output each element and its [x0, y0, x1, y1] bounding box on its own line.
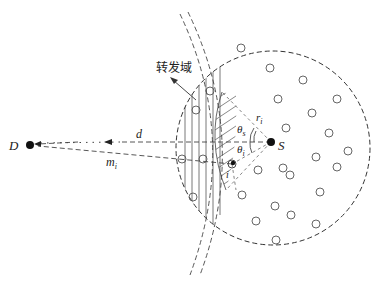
- forwarding-region-label: 转发域: [156, 62, 192, 74]
- diagram-graphics: [0, 0, 374, 281]
- destination-label: D: [9, 139, 18, 152]
- relay-node-label: i: [226, 170, 229, 180]
- radius-label: ri: [256, 112, 263, 126]
- relay-node-i: [231, 161, 235, 165]
- angle-upper-label: θs: [237, 124, 246, 138]
- angle-lower-label: θi: [237, 144, 245, 158]
- distance-label-d: d: [136, 128, 142, 140]
- coverage-circle: [176, 51, 370, 245]
- source-label: S: [278, 139, 285, 152]
- neighbor-nodes: [178, 44, 352, 244]
- source-node: [267, 138, 275, 146]
- relay-distance-label: mi: [106, 156, 117, 171]
- boundary-arc-outer: [188, 12, 222, 275]
- relay-forwarding-diagram: D S d mi i ri θs θi 转发域: [0, 0, 374, 281]
- forwarding-arrow: [173, 80, 196, 100]
- destination-node: [26, 141, 34, 149]
